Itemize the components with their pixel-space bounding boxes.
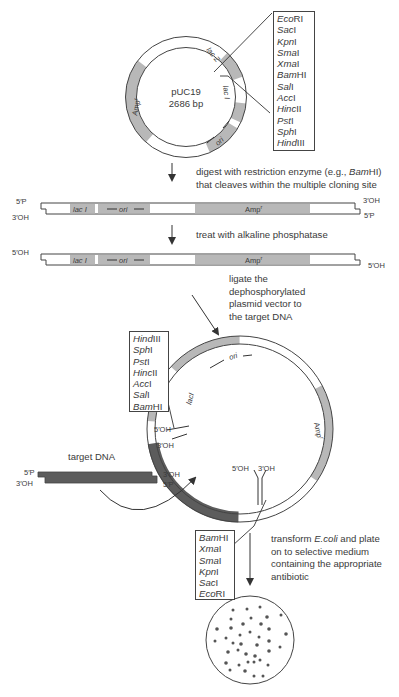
site: SphI [277, 126, 311, 137]
svg-text:3′OH: 3′OH [16, 479, 33, 488]
site: SphI [133, 344, 165, 355]
site: KpnI [199, 566, 231, 577]
svg-text:lac I: lac I [73, 256, 87, 265]
svg-text:ori: ori [119, 205, 128, 214]
dephosphorylated-plasmid: lac I ori Ampr 5′OH 5′OH [12, 248, 385, 270]
svg-text:ori: ori [228, 351, 239, 362]
end-3oh-left: 3′OH [12, 213, 29, 222]
site: HincII [277, 103, 311, 114]
ampr-label-linear: Ampr [245, 204, 262, 214]
nick-5oh-left: 5′OH [154, 425, 171, 434]
site: AccI [277, 92, 311, 103]
site: HindIII [133, 333, 165, 344]
step-digest: digest with restriction enzyme (e.g., Ba… [196, 166, 382, 191]
target-dna: target DNA 5′P 3′OH 3′OH 5′P [16, 451, 195, 510]
site: BamHI [133, 401, 165, 412]
svg-text:lac I: lac I [73, 205, 87, 214]
site: BamHI [199, 532, 231, 543]
end-5oh-right: 5′OH [368, 261, 385, 270]
site: SalI [133, 389, 165, 400]
svg-text:5′P: 5′P [163, 480, 174, 489]
site: EcoRI [277, 13, 311, 24]
svg-text:5′P: 5′P [24, 468, 35, 477]
target-dna-label: target DNA [68, 451, 116, 462]
mcs-box-bottom: BamHI XmaI SmaI KpnI SacI EcoRI [195, 530, 235, 600]
mcs-box-left: HindIII SphI PstI HincII AccI SalI BamHI [129, 331, 169, 412]
plasmid-name: pUC19 [171, 86, 201, 97]
puc19-plasmid-map: pUC19 2686 bp lac Z lac I ori Ampr [126, 13, 273, 158]
site: SmaI [199, 555, 231, 566]
site: XmaI [199, 543, 231, 554]
svg-text:Ampr: Ampr [312, 421, 325, 440]
site: EcoRI [199, 588, 231, 599]
svg-text:Ampr: Ampr [245, 255, 262, 265]
mcs-box-top: EcoRI SacI KpnI SmaI XmaI BamHI SalI Acc… [273, 11, 315, 151]
site: SacI [277, 24, 311, 35]
svg-text:3′OH: 3′OH [163, 470, 180, 479]
site: SmaI [277, 47, 311, 58]
nick-3oh-bottom: 3′OH [258, 464, 275, 473]
site: SalI [277, 81, 311, 92]
nick-3oh-left: 3′OH [157, 441, 174, 450]
site: XmaI [277, 58, 311, 69]
site: PstI [133, 356, 165, 367]
plasmid-size: 2686 bp [169, 98, 203, 109]
end-3oh-right: 3′OH [363, 196, 380, 205]
end-5p-left: 5′P [16, 197, 27, 206]
site: BamHI [277, 69, 311, 80]
site: AccI [133, 378, 165, 389]
linearized-plasmid: lac I ori Ampr 5′P 3′OH 3′OH 5′P [12, 196, 380, 222]
site: SacI [199, 577, 231, 588]
site: KpnI [277, 36, 311, 47]
laci-label: lac I [221, 85, 232, 100]
nick-5oh-bottom: 5′OH [232, 464, 249, 473]
end-5p-right: 5′P [364, 211, 375, 220]
site: HincII [133, 367, 165, 378]
site: HindIII [277, 137, 311, 148]
step-ligate: ligate the dephosphorylated plasmid vect… [229, 273, 305, 323]
step-phosphatase: treat with alkaline phosphatase [196, 229, 328, 242]
svg-text:ori: ori [119, 256, 128, 265]
petri-dish [206, 596, 294, 684]
svg-text:lacI: lacI [184, 392, 196, 406]
step-transform: transform E.coli and plate on to selecti… [271, 533, 382, 583]
site: PstI [277, 115, 311, 126]
end-5oh-left: 5′OH [12, 248, 29, 257]
